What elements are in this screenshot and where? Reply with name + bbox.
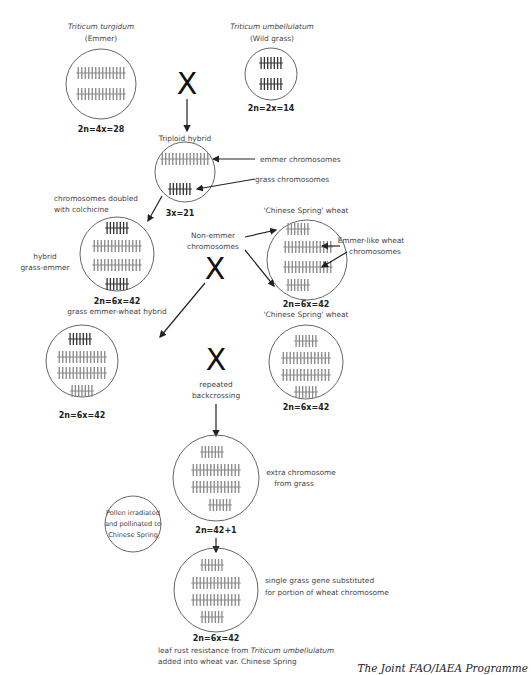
triploid-cell [155,142,215,202]
extra-chromosomes [191,446,241,511]
arrow-emmerlike-bottom [322,252,347,267]
doubling-note-2: with colchicine [54,205,109,214]
cs1-chromosomes [283,223,333,291]
arrow-grass-chromosomes [197,179,255,189]
final-cell [174,548,258,632]
cross-symbol: X [177,66,198,101]
pollen-note-2: and pollinated to [105,520,161,528]
arrow-to-doubled [148,196,162,221]
grass-chromosomes [259,57,283,90]
grass-ploidy: 2n=2x=14 [248,104,295,113]
backcross-left-chromosomes [57,333,107,397]
backcross-right-ploidy: 2n=6x=42 [283,403,330,412]
hybrid-side-2: grass-emmer [20,263,70,272]
extra-ploidy: 2n=42+1 [195,526,237,535]
final-caption-2: added into wheat var. Chinese Spring [158,657,297,666]
triploid-ploidy: 3x=21 [166,209,195,218]
arrow-nonemmer-top [245,230,276,237]
emmerlike-label-2: chromosomes [349,247,401,256]
cs1-caption: 'Chinese Spring' wheat [264,310,349,319]
final-ploidy: 2n=6x=42 [193,634,240,643]
final-label-1: single grass gene substituted [265,576,374,585]
nonemmer-label-1: Non-emmer [191,231,236,240]
emmer-ploidy: 2n=4x=28 [78,125,125,134]
cs1-ploidy: 2n=6x=42 [283,300,330,309]
emmer-subtitle: (Emmer) [85,34,118,43]
credit: The Joint FAO/IAEA Programme [358,662,528,674]
extra-cell [173,435,259,521]
triploid-chromosomes [160,153,210,195]
label-emmer-chromosomes: emmer chromosomes [260,155,341,164]
final-label-2: for portion of wheat chromosome [265,588,389,597]
hybrid-chromosomes [92,222,142,290]
emmer-chromosomes [76,67,126,100]
label-grass-chromosomes: grass chromosomes [255,175,329,184]
emmerlike-label-1: Emmer-like wheat [338,236,405,245]
nonemmer-label-2: chromosomes [187,242,239,251]
hybrid-ploidy: 2n=6x=42 [94,297,141,306]
arrow-nonemmer-bottom [245,250,274,286]
final-caption-1: leaf rust resistance from Triticum umbel… [158,646,334,655]
final-caption-1b: Triticum umbellulatum [251,646,335,655]
hybrid-side-1: hybrid [33,252,57,261]
backcross-left-ploidy: 2n=6x=42 [59,411,106,420]
doubling-note-1: chromosomes doubled [54,194,138,203]
grass-title: Triticum umbellulatum [230,22,314,31]
emmer-title: Triticum turgidum [68,22,134,31]
cs1-title: 'Chinese Spring' wheat [264,206,349,215]
backcross-right-chromosomes [281,335,331,398]
final-caption-1a: leaf rust resistance from [158,646,251,655]
grass-subtitle: (Wild grass) [250,34,294,43]
final-chromosomes [191,559,241,623]
cross-symbol-3: X [206,342,227,377]
backcross-label-1: repeated [199,380,233,389]
backcross-label-2: backcrossing [192,391,240,400]
cross-symbol-2: X [205,251,226,286]
pollen-note-3: Chinese Spring [108,531,158,539]
pollen-note-1: Pollen irradiated [106,509,160,517]
hybrid-caption: grass emmer-wheat hybrid [67,307,167,316]
emmer-cell [66,49,136,119]
grass-cell [245,48,297,100]
extra-label-1: extra chromosome [266,468,336,477]
extra-label-2: from grass [274,479,314,488]
breeding-diagram: Triticum turgidum (Emmer) 2n=4x=28 Triti… [0,0,531,675]
cs1-cell [267,220,347,300]
